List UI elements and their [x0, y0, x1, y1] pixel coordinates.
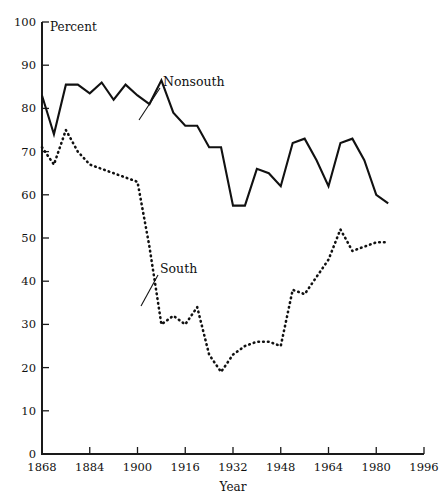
y-tick-label: 100 [14, 15, 36, 29]
y-tick-label: 70 [21, 145, 36, 159]
nonsouth-leader-line [139, 88, 160, 120]
axis-lines [42, 22, 424, 454]
y-axis-title: Percent [50, 20, 97, 34]
x-tick-label: 1948 [266, 460, 295, 474]
south-series-label: South [160, 261, 197, 276]
x-axis-ticks: 186818841900191619321948196419801996 [27, 447, 438, 474]
y-tick-label: 0 [29, 447, 36, 461]
y-tick-label: 90 [21, 58, 36, 72]
x-tick-label: 1964 [314, 460, 343, 474]
y-tick-label: 50 [21, 231, 36, 245]
series-line-south [42, 130, 388, 372]
line-chart: 0102030405060708090100 18681884190019161… [0, 0, 442, 498]
x-tick-label: 1868 [27, 460, 56, 474]
nonsouth-series-label: Nonsouth [163, 74, 225, 89]
y-tick-label: 20 [21, 361, 36, 375]
x-tick-label: 1916 [171, 460, 200, 474]
chart-axes [42, 22, 424, 454]
y-tick-label: 30 [21, 317, 36, 331]
x-tick-label: 1932 [218, 460, 247, 474]
x-tick-label: 1884 [75, 460, 104, 474]
x-axis-title: Year [219, 480, 247, 494]
y-axis-ticks: 0102030405060708090100 [14, 15, 49, 461]
x-tick-label: 1900 [123, 460, 152, 474]
y-tick-label: 10 [21, 404, 36, 418]
y-tick-label: 40 [21, 274, 36, 288]
x-tick-label: 1996 [409, 460, 438, 474]
data-series-group [42, 80, 388, 372]
series-line-nonsouth [42, 80, 388, 205]
annotation-south: South [141, 261, 197, 306]
y-tick-label: 80 [21, 101, 36, 115]
y-tick-label: 60 [21, 188, 36, 202]
x-tick-label: 1980 [362, 460, 391, 474]
chart-container: 0102030405060708090100 18681884190019161… [0, 0, 442, 498]
